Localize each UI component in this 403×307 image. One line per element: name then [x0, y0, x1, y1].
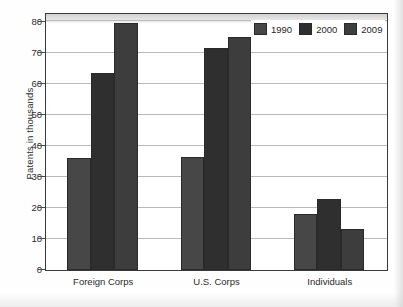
y-axis-title: Patents in thousands — [24, 49, 35, 219]
legend-entry: 2009 — [344, 23, 382, 35]
page-edge-shading-bottom — [0, 293, 403, 307]
bar — [294, 214, 318, 270]
y-axis-tick-mark — [38, 52, 45, 53]
bar — [204, 48, 228, 270]
y-axis-tick-mark — [38, 114, 45, 115]
y-axis-tick-label: 40 — [2, 140, 42, 151]
plot-area — [45, 13, 388, 271]
y-axis-tick-label: 80 — [2, 15, 42, 26]
bar — [341, 229, 365, 270]
y-axis-tick-label: 50 — [2, 109, 42, 120]
y-axis-tick-mark — [38, 269, 45, 270]
bar — [114, 23, 138, 270]
y-axis-tick-mark — [38, 21, 45, 22]
bar — [317, 199, 341, 270]
x-axis-category-label: U.S. Corps — [193, 276, 239, 287]
legend-label: 1990 — [271, 24, 292, 35]
legend-label: 2009 — [361, 24, 382, 35]
y-axis-tick-label: 60 — [2, 77, 42, 88]
legend-entry: 2000 — [299, 23, 337, 35]
y-axis-tick-mark — [38, 83, 45, 84]
y-axis-tick-mark — [38, 238, 45, 239]
bar-chart: Patents in thousands 01020304050607080 F… — [0, 0, 403, 307]
legend: 199020002009 — [251, 20, 385, 38]
bar — [181, 157, 205, 270]
y-axis-tick-label: 30 — [2, 171, 42, 182]
y-axis-tick-label: 10 — [2, 233, 42, 244]
y-axis-tick-label: 70 — [2, 46, 42, 57]
y-axis-tick-mark — [38, 176, 45, 177]
y-axis-tick-label: 0 — [2, 264, 42, 275]
legend-label: 2000 — [316, 24, 337, 35]
bar — [67, 158, 91, 270]
page-edge-shading-right — [394, 0, 403, 307]
y-axis-tick-mark — [38, 145, 45, 146]
bar — [228, 37, 252, 270]
legend-swatch-icon — [344, 23, 357, 35]
bar — [91, 73, 115, 270]
legend-swatch-icon — [254, 23, 267, 35]
legend-swatch-icon — [299, 23, 312, 35]
x-axis-category-label: Individuals — [307, 276, 352, 287]
x-axis-category-label: Foreign Corps — [73, 276, 133, 287]
y-axis-tick-mark — [38, 207, 45, 208]
y-axis-tick-label: 20 — [2, 202, 42, 213]
legend-entry: 1990 — [254, 23, 292, 35]
